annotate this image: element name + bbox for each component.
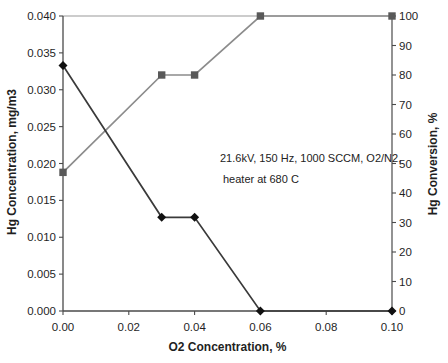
right-axis-tick-label: 60 [399, 128, 412, 140]
x-axis-tick-label: 0.02 [118, 321, 140, 333]
x-axis-title: O2 Concentration, % [63, 340, 392, 354]
conditions-annotation: 21.6kV, 150 Hz, 1000 SCCM, O2/N2, heater… [220, 148, 401, 190]
right-axis-tick-label: 10 [399, 276, 412, 288]
hg-concentration-marker [157, 213, 166, 222]
left-axis-tick-label: 0.015 [27, 194, 56, 206]
hg-conversion-marker [388, 12, 395, 19]
annotation-line-2: heater at 680 C [220, 169, 401, 190]
left-axis-tick-label: 0.000 [27, 305, 56, 317]
hg-concentration-marker [388, 307, 397, 316]
right-axis-tick-label: 80 [399, 69, 412, 81]
right-axis-tick-label: 0 [399, 305, 405, 317]
hg-conversion-marker [257, 12, 264, 19]
left-axis-tick-label: 0.025 [27, 121, 56, 133]
x-axis-tick-label: 0.10 [381, 321, 403, 333]
left-axis-tick-label: 0.040 [27, 10, 56, 22]
right-axis-tick-label: 90 [399, 40, 412, 52]
left-axis-tick-label: 0.005 [27, 268, 56, 280]
hg-conversion-marker [158, 71, 165, 78]
right-axis-tick-label: 20 [399, 246, 412, 258]
left-axis-tick-label: 0.020 [27, 158, 56, 170]
right-axis-tick-label: 30 [399, 217, 412, 229]
hg-conversion-marker [59, 169, 66, 176]
x-axis-tick-label: 0.08 [315, 321, 337, 333]
annotation-line-1: 21.6kV, 150 Hz, 1000 SCCM, O2/N2, [220, 148, 401, 169]
right-axis-tick-label: 70 [399, 99, 412, 111]
x-axis-tick-label: 0.06 [249, 321, 271, 333]
x-axis-tick-label: 0.00 [52, 321, 74, 333]
x-axis-tick-label: 0.04 [183, 321, 206, 333]
left-axis-tick-label: 0.010 [27, 231, 56, 243]
hg-conversion-marker [191, 71, 198, 78]
right-axis-title: Hg Conversion, % [426, 0, 440, 329]
hg-concentration-marker [59, 61, 68, 70]
left-axis-title: Hg Concentration, mg/m3 [5, 0, 19, 327]
chart-figure: 0.0400.0350.0300.0250.0200.0150.0100.005… [0, 0, 448, 363]
left-axis-tick-label: 0.035 [27, 47, 56, 59]
left-axis-tick-label: 0.030 [27, 84, 56, 96]
right-axis-tick-label: 100 [399, 10, 418, 22]
